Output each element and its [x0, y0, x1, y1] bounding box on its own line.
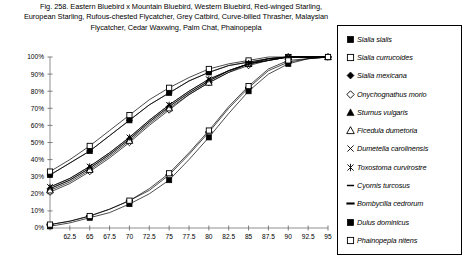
- y-tick-label: 20%: [31, 190, 44, 197]
- asterisk-glyph: [347, 164, 353, 171]
- cross-glyph: [347, 146, 353, 152]
- legend-item[interactable]: Dulus dominicus: [344, 213, 461, 231]
- x-tick-label: 95: [324, 233, 332, 240]
- chart-plot-area: 0%10%20%30%40%50%60%70%80%90%100%62.5656…: [0, 40, 336, 257]
- caption-line-3: Flycatcher, Cedar Waxwing, Palm Chat, Ph…: [0, 23, 352, 33]
- data-point: [206, 66, 211, 71]
- data-point: [325, 54, 330, 59]
- legend-item[interactable]: Onychognathus morio: [344, 85, 461, 103]
- x-tick-label: 62.5: [63, 233, 76, 240]
- data-point: [127, 113, 132, 118]
- legend-item[interactable]: Ficedula dumetoria: [344, 121, 461, 139]
- data-point: [206, 128, 211, 133]
- legend-label: Sturnus vulgaris: [357, 108, 408, 117]
- filled-square-glyph: [347, 219, 353, 225]
- legend-item[interactable]: Sialia currucoides: [344, 48, 461, 66]
- asterisk-icon: [344, 162, 357, 173]
- dash-icon: [344, 180, 357, 191]
- chart-series: [47, 54, 331, 195]
- open-triangle-icon: [344, 125, 357, 136]
- legend-label: Toxostoma curvirostre: [357, 163, 426, 172]
- legend-item[interactable]: Phainopepla nitens: [344, 231, 461, 249]
- legend-label: Sialia mexicana: [357, 71, 407, 80]
- legend-item[interactable]: Bombycilla cedrorum: [344, 195, 461, 213]
- y-tick-label: 40%: [31, 156, 44, 163]
- dash-bold-icon: [344, 198, 357, 209]
- filled-diamond-glyph: [347, 72, 354, 79]
- chart-series: [46, 57, 331, 225]
- data-point: [167, 178, 172, 183]
- caption-line-1: Fig. 258. Eastern Bluebird x Mountain Bl…: [0, 2, 352, 12]
- y-tick-label: 100%: [27, 53, 44, 60]
- open-square-icon: [344, 235, 357, 246]
- legend-item[interactable]: Sialia mexicana: [344, 67, 461, 85]
- filled-square-icon: [344, 217, 357, 228]
- open-square-glyph: [347, 54, 353, 60]
- chart-legend: Sialia sialisSialia currucoidesSialia me…: [337, 25, 462, 255]
- y-tick-label: 30%: [31, 173, 44, 180]
- legend-item[interactable]: Dumetella carolinensis: [344, 140, 461, 158]
- data-point: [206, 135, 211, 140]
- filled-triangle-icon: [344, 107, 357, 118]
- legend-item[interactable]: Sialia sialis: [344, 30, 461, 48]
- x-tick-label: 80: [205, 233, 213, 240]
- legend-item[interactable]: Toxostoma curvirostre: [344, 158, 461, 176]
- open-square-glyph: [347, 237, 353, 243]
- data-point: [87, 163, 92, 169]
- data-point: [47, 222, 52, 227]
- data-point: [87, 143, 92, 148]
- y-tick-label: 70%: [31, 105, 44, 112]
- figure-caption: Fig. 258. Eastern Bluebird x Mountain Bl…: [0, 2, 352, 33]
- data-point: [167, 171, 172, 176]
- legend-label: Cyornis turcosus: [357, 181, 410, 190]
- data-point: [206, 76, 211, 82]
- data-point: [127, 198, 132, 203]
- filled-triangle-glyph: [347, 109, 354, 116]
- legend-label: Dumetella carolinensis: [357, 144, 428, 153]
- filled-square-icon: [344, 34, 357, 45]
- legend-item[interactable]: Sturnus vulgaris: [344, 103, 461, 121]
- data-point: [246, 89, 251, 94]
- open-diamond-icon: [344, 89, 357, 100]
- y-tick-label: 50%: [31, 139, 44, 146]
- data-point: [167, 102, 172, 108]
- filled-diamond-icon: [344, 70, 357, 81]
- open-triangle-glyph: [347, 127, 355, 134]
- figure-container: Fig. 258. Eastern Bluebird x Mountain Bl…: [0, 0, 464, 257]
- y-tick-label: 60%: [31, 122, 44, 129]
- y-tick-label: 0%: [34, 224, 44, 231]
- legend-label: Phainopepla nitens: [357, 236, 417, 245]
- data-point: [167, 85, 172, 90]
- chart-series: [47, 57, 331, 175]
- data-point: [286, 58, 291, 63]
- chart-series: [47, 54, 330, 227]
- x-tick-label: 85: [245, 233, 253, 240]
- filled-square-glyph: [347, 36, 353, 42]
- data-point: [87, 213, 92, 218]
- legend-label: Dulus dominicus: [357, 218, 409, 227]
- y-tick-label: 90%: [31, 71, 44, 78]
- chart-series: [47, 54, 330, 174]
- legend-item[interactable]: Cyornis turcosus: [344, 176, 461, 194]
- x-tick-label: 75: [165, 233, 173, 240]
- legend-label: Onychognathus morio: [357, 90, 427, 99]
- caption-line-2: European Starling, Rufous-chested Flycat…: [0, 12, 352, 22]
- x-tick-label: 82.5: [222, 233, 235, 240]
- x-tick-label: 72.5: [143, 233, 156, 240]
- chart-svg: 0%10%20%30%40%50%60%70%80%90%100%62.5656…: [0, 40, 336, 257]
- cross-icon: [344, 143, 357, 154]
- chart-series: [47, 54, 332, 193]
- x-tick-label: 65: [86, 233, 94, 240]
- open-square-icon: [344, 52, 357, 63]
- legend-label: Bombycilla cedrorum: [357, 199, 423, 208]
- x-tick-label: 70: [126, 233, 134, 240]
- x-tick-label: 77.5: [183, 233, 196, 240]
- legend-label: Sialia currucoides: [357, 53, 413, 62]
- data-point: [47, 184, 52, 190]
- data-point: [47, 169, 52, 174]
- x-tick-label: 90: [285, 233, 293, 240]
- legend-label: Ficedula dumetoria: [357, 126, 417, 135]
- y-tick-label: 10%: [31, 207, 44, 214]
- y-tick-label: 80%: [31, 88, 44, 95]
- y-axis-ticks: 0%10%20%30%40%50%60%70%80%90%100%: [27, 53, 52, 231]
